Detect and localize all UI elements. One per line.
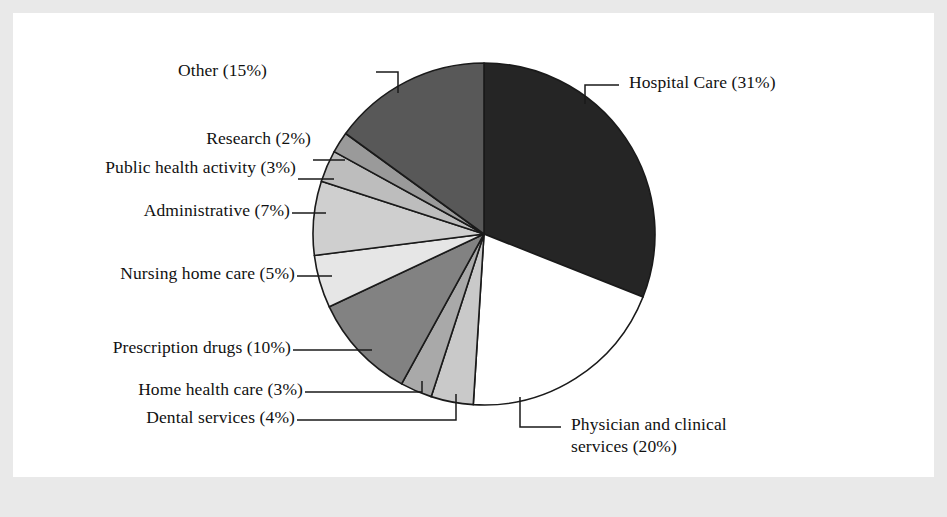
leader-line-physician-services	[520, 397, 561, 427]
pie-label-research: Research (2%)	[206, 128, 311, 150]
figure-root: Other (15%) Research (2%) Public health …	[0, 0, 947, 517]
pie-label-home-health-care: Home health care (3%)	[138, 379, 303, 401]
pie-label-nursing-home-care: Nursing home care (5%)	[120, 263, 295, 285]
pie-label-prescription-drugs: Prescription drugs (10%)	[113, 337, 291, 359]
pie-slices	[313, 63, 655, 405]
pie-chart: Other (15%) Research (2%) Public health …	[0, 0, 947, 517]
pie-label-other: Other (15%)	[178, 60, 267, 82]
pie-label-dental-services: Dental services (4%)	[146, 407, 295, 429]
pie-label-public-health-activity: Public health activity (3%)	[105, 157, 296, 179]
pie-label-hospital-care: Hospital Care (31%)	[629, 72, 776, 94]
pie-label-physician-and-clinical-services: Physician and clinical services (20%)	[571, 414, 761, 458]
pie-label-physician-line2: services (20%)	[571, 436, 677, 456]
leader-line-dental-services	[297, 394, 456, 420]
pie-svg	[0, 0, 947, 517]
pie-label-administrative: Administrative (7%)	[144, 200, 290, 222]
pie-label-physician-line1: Physician and clinical	[571, 414, 727, 434]
